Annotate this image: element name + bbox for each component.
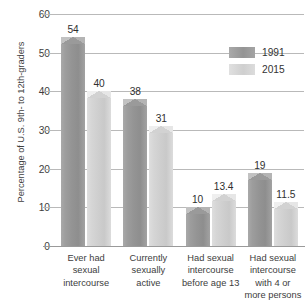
bar-chart: Percentage of U.S. 9th- to 12th-graders … [0, 0, 305, 307]
bar-1991-2: 10 [186, 207, 210, 246]
x-axis-label-line: intercourse [236, 264, 305, 276]
bar-2015-0: 40 [87, 91, 111, 246]
bar-2015-1: 31 [149, 126, 173, 246]
bar-value-label: 11.5 [276, 189, 295, 200]
bar-value-label: 31 [156, 113, 167, 124]
legend-swatch-icon-1991 [229, 47, 255, 58]
bar-cap [274, 202, 298, 209]
bar-value-label: 13.4 [214, 181, 234, 192]
bar-body [248, 180, 272, 246]
legend-item-1991: 1991 [229, 45, 285, 59]
bar-body [186, 214, 210, 246]
legend-label-2015: 2015 [262, 64, 285, 75]
gridline [43, 14, 304, 15]
gridline [43, 246, 305, 247]
bar-value-label: 54 [67, 24, 78, 35]
bar-cap [212, 194, 236, 201]
bar-value-label: 40 [93, 78, 104, 89]
bar-value-label: 19 [254, 160, 265, 171]
bar-cap [149, 126, 173, 133]
bar-1991-0: 54 [61, 37, 85, 246]
bar-body [61, 44, 85, 246]
legend-label-1991: 1991 [262, 47, 285, 58]
bar-cap [87, 91, 111, 98]
bar-value-label: 10 [192, 194, 203, 205]
legend-swatch-icon-2015 [229, 64, 255, 75]
bar-cap [123, 99, 147, 106]
bar-value-label: 38 [130, 86, 141, 97]
x-axis-label-line: Had sexual [236, 252, 305, 264]
bar-body [274, 209, 298, 246]
legend: 1991 2015 [229, 45, 285, 79]
bar-cap [186, 207, 210, 214]
bar-2015-2: 13.4 [212, 194, 236, 246]
bar-2015-3: 11.5 [274, 202, 298, 246]
bar-body [123, 106, 147, 246]
legend-item-2015: 2015 [229, 62, 285, 76]
x-axis-label-line: more persons [236, 289, 305, 301]
x-axis-label-3: Had sexualintercoursewith 4 ormore perso… [236, 252, 305, 302]
bar-body [149, 133, 173, 246]
bar-1991-1: 38 [123, 99, 147, 246]
bar-cap [248, 173, 272, 180]
bar-body [87, 98, 111, 246]
bar-1991-3: 19 [248, 173, 272, 246]
x-axis-label-line: with 4 or [236, 277, 305, 289]
y-axis-title: Percentage of U.S. 9th- to 12th-graders [16, 22, 26, 222]
bar-body [212, 201, 236, 246]
bar-cap [61, 37, 85, 44]
